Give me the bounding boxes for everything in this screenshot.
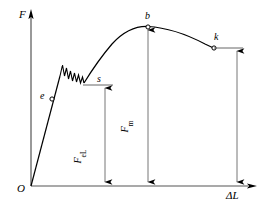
origin-label: O [17, 183, 25, 194]
tensile-curve [31, 26, 214, 186]
measure-label-Fm: Fm [120, 121, 133, 133]
x-axis-label-main: L [232, 189, 238, 201]
y-axis [28, 9, 33, 186]
marker-point-e [50, 97, 54, 101]
dimension-k [214, 48, 243, 182]
curve-hardening-and-necking [84, 26, 214, 83]
measure-subscript-Fel: eL [78, 149, 87, 157]
x-axis-arrow-icon [247, 183, 257, 188]
chart-canvas [0, 0, 270, 212]
point-label-s: s [97, 74, 101, 84]
dimension-Fel [83, 85, 113, 182]
curve-yield-zigzag [60, 65, 84, 83]
y-axis-label: F [19, 9, 26, 20]
x-axis-label: ΔL [226, 190, 239, 201]
point-markers [50, 25, 216, 101]
y-axis-arrow-icon [28, 9, 33, 19]
point-label-k: k [214, 32, 218, 42]
point-label-b: b [145, 11, 150, 21]
force-elongation-figure: F ΔL O e s b k FeL Fm [0, 0, 270, 212]
marker-point-b [146, 25, 150, 29]
measure-symbol-Fel: F [72, 157, 83, 163]
point-label-e: e [40, 91, 44, 101]
measure-subscript-Fm: m [125, 121, 134, 127]
x-axis [31, 183, 257, 188]
measure-symbol-Fm: F [119, 126, 130, 132]
curve-elastic-segment [31, 76, 60, 186]
measure-label-Fel: FeL [73, 149, 86, 163]
